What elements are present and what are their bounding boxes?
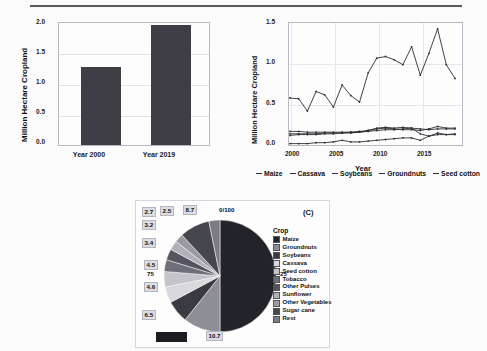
panel-c-legend: Crop MaizeGroundnutsSoybeansCassavaSeed … (273, 227, 332, 323)
legend-dash-icon (256, 173, 262, 175)
legend-row-tobacco[interactable]: Tobacco (273, 276, 332, 284)
legend-row-maize[interactable]: Maize (273, 236, 332, 244)
legend-item-cassava[interactable]: Cassava (290, 170, 326, 177)
panel-a-xtick-1: Year 2019 (128, 151, 190, 158)
panel-b-xtick-1: 2005 (329, 150, 343, 157)
legend-label: Groundnuts (387, 170, 426, 177)
legend-dash-icon (379, 173, 385, 175)
panel-a-ytick-0: 0.0 (36, 138, 45, 145)
legend-row-cassava[interactable]: Cassava (273, 260, 332, 268)
legend-row-sugar-cane[interactable]: Sugar cane (273, 307, 332, 315)
pie-value-label-maize: 50 (156, 332, 187, 342)
legend-swatch-icon (273, 236, 280, 243)
bar-year-2019 (151, 25, 191, 145)
legend-label: Tobacco (283, 276, 307, 284)
legend-swatch-icon (273, 308, 280, 315)
legend-label: Maize (283, 236, 299, 244)
legend-label: Seed cotton (441, 170, 480, 177)
legend-label: Soybeans (283, 252, 311, 260)
pie-graphic (155, 214, 285, 338)
panel-a-ytick-4: 2.0 (36, 18, 45, 25)
legend-label: Sugar cane (283, 307, 315, 315)
panel-b-series-lines (288, 22, 463, 146)
legend-label: Sunflower (283, 291, 312, 299)
legend-item-groundnuts[interactable]: Groundnuts (379, 170, 426, 177)
legend-swatch-icon (273, 252, 280, 259)
pie-axis-75: 75 (147, 270, 154, 278)
panel-c-tag: (C) (303, 208, 313, 217)
panel-b-xtick-0: 2000 (285, 150, 299, 157)
legend-label: Other Vegetables (283, 299, 332, 307)
panel-b-ytick-1: 0.5 (266, 99, 275, 106)
legend-item-maize[interactable]: Maize (256, 170, 283, 177)
pie-value-label-sunflower: 2.7 (142, 207, 156, 217)
panel-b-ytick-2: 1.0 (266, 58, 275, 65)
panel-a-xtick-0: Year 2000 (58, 151, 120, 158)
pie-value-label-other-vegetables: 2.5 (160, 206, 174, 216)
panel-a-bar-chart: Million Hectare Cropland (A) 2.0 1.5 1.0… (10, 14, 225, 174)
legend-label: Maize (264, 170, 283, 177)
legend-label: Soybeans (340, 170, 372, 177)
panel-b-y-axis-label: Million Hectare Cropland (250, 56, 259, 144)
legend-row-other-pulses[interactable]: Other Pulses (273, 283, 332, 291)
pie-value-label-other-pulses: 3.2 (142, 220, 156, 230)
panel-b-line-chart: Million Hectare Cropland Year (B) 1.5 1.… (240, 14, 486, 194)
pie-value-label-cassava: 4.6 (144, 282, 158, 292)
panel-c-pie-chart: (C) 0/100 25 75 2.7 2.5 8.7 3.2 3.4 4.5 … (135, 200, 365, 348)
panel-b-xtick-3: 2015 (417, 150, 431, 157)
legend-label: Seed cotton (283, 268, 317, 276)
panel-b-xtick-2: 2010 (373, 150, 387, 157)
pie-axis-0-100: 0/100 (219, 206, 234, 214)
pie-slice-maize (220, 220, 276, 332)
legend-swatch-icon (273, 244, 280, 251)
legend-row-rest[interactable]: Rest (273, 315, 332, 323)
legend-swatch-icon (273, 284, 280, 291)
bar-year-2000 (81, 67, 121, 145)
panel-a-ytick-1: 0.5 (36, 108, 45, 115)
series-line-maize (290, 29, 455, 111)
legend-swatch-icon (273, 260, 280, 267)
legend-dash-icon (433, 173, 439, 175)
legend-item-seed-cotton[interactable]: Seed cotton (433, 170, 480, 177)
legend-dash-icon (290, 173, 296, 175)
legend-title: Crop (273, 227, 332, 234)
pie-value-label-tobacco: 3.4 (142, 238, 156, 248)
panel-b-legend: Maize Cassava Soybeans Groundnuts Seed c… (252, 170, 484, 177)
legend-dash-icon (332, 173, 338, 175)
pie-value-label-groundnuts: 10.7 (206, 331, 223, 341)
panel-a-ytick-3: 1.5 (36, 48, 45, 55)
legend-label: Groundnuts (283, 244, 317, 252)
legend-row-other-vegetables[interactable]: Other Vegetables (273, 299, 332, 307)
top-divider (30, 5, 462, 7)
legend-swatch-icon (273, 268, 280, 275)
legend-swatch-icon (273, 316, 280, 323)
panel-a-ytick-2: 1.0 (36, 78, 45, 85)
legend-label: Cassava (298, 170, 326, 177)
legend-row-soybeans[interactable]: Soybeans (273, 252, 332, 260)
pie-value-label-soybeans: 6.5 (142, 310, 156, 320)
panel-a-y-axis-label: Million Hectare Cropland (20, 48, 29, 142)
legend-label: Rest (283, 315, 296, 323)
pie-value-label-sugar-cane: 8.7 (183, 205, 197, 215)
legend-row-groundnuts[interactable]: Groundnuts (273, 244, 332, 252)
legend-label: Cassava (283, 260, 307, 268)
legend-label: Other Pulses (283, 283, 320, 291)
legend-swatch-icon (273, 276, 280, 283)
panel-b-ytick-0: 0.0 (266, 139, 275, 146)
legend-swatch-icon (273, 300, 280, 307)
legend-row-seed-cotton[interactable]: Seed cotton (273, 268, 332, 276)
panel-b-ytick-3: 1.5 (266, 18, 275, 25)
pie-value-label-seed-cotton: 4.5 (144, 260, 158, 270)
legend-item-soybeans[interactable]: Soybeans (332, 170, 372, 177)
legend-swatch-icon (273, 292, 280, 299)
panel-a-plot-area (58, 22, 210, 146)
legend-row-sunflower[interactable]: Sunflower (273, 291, 332, 299)
